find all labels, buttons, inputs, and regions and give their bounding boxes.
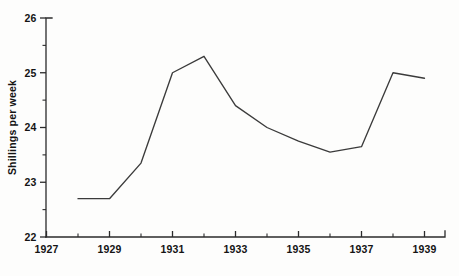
line-chart: 22232425261927192919311933193519371939 S… bbox=[0, 0, 459, 276]
axes bbox=[46, 18, 445, 237]
axis-tick-labels: 22232425261927192919311933193519371939 bbox=[24, 12, 436, 255]
y-tick-label: 23 bbox=[24, 176, 36, 188]
x-tick-label: 1935 bbox=[286, 243, 310, 255]
axis-ticks bbox=[40, 18, 425, 237]
y-tick-label: 26 bbox=[24, 12, 36, 24]
x-tick-label: 1939 bbox=[412, 243, 436, 255]
series-line-0 bbox=[78, 56, 425, 198]
data-series bbox=[78, 56, 425, 198]
x-tick-label: 1931 bbox=[160, 243, 184, 255]
y-axis-line bbox=[46, 18, 52, 237]
y-tick-label: 22 bbox=[24, 231, 36, 243]
axis-titles: Shillings per week bbox=[6, 80, 18, 175]
y-tick-label: 25 bbox=[24, 67, 36, 79]
x-tick-label: 1937 bbox=[349, 243, 373, 255]
x-axis-line bbox=[46, 231, 445, 237]
x-tick-label: 1927 bbox=[34, 243, 58, 255]
y-tick-label: 24 bbox=[24, 121, 36, 133]
x-tick-label: 1933 bbox=[223, 243, 247, 255]
y-axis-title: Shillings per week bbox=[6, 80, 18, 175]
x-tick-label: 1929 bbox=[97, 243, 121, 255]
chart-container: 22232425261927192919311933193519371939 S… bbox=[0, 0, 459, 276]
